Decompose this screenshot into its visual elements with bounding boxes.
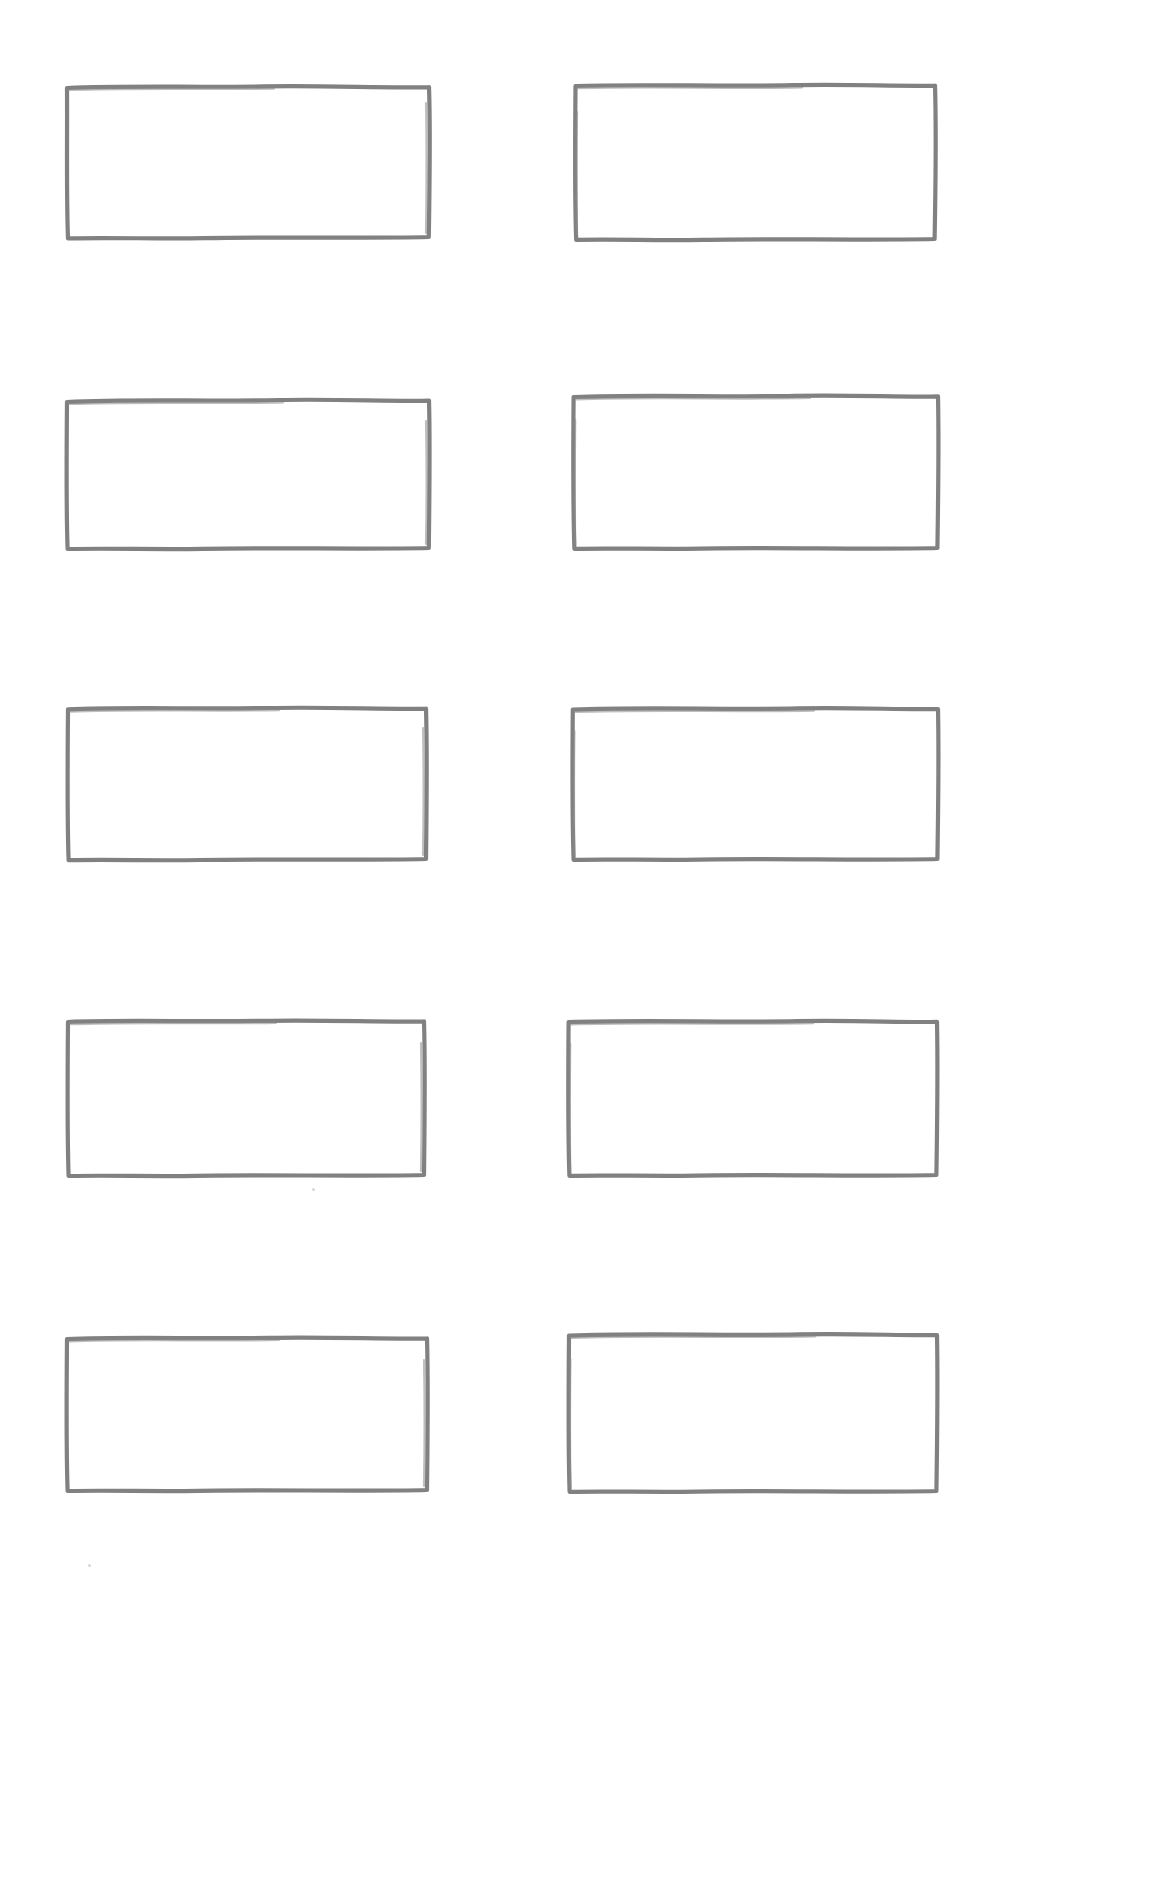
box-r4-c1[interactable]	[64, 1017, 428, 1179]
box-r2-c1[interactable]	[63, 396, 433, 552]
box-r1-c2[interactable]	[572, 82, 938, 243]
box-grid	[0, 0, 1173, 1897]
paper-speck	[312, 1188, 315, 1191]
box-r3-c2[interactable]	[569, 705, 941, 863]
hand-drawn-rectangle-icon	[63, 1334, 431, 1494]
box-r4-c2[interactable]	[565, 1018, 940, 1179]
hand-drawn-rectangle-icon	[569, 705, 941, 863]
hand-drawn-rectangle-icon	[63, 396, 433, 552]
box-r2-c2[interactable]	[570, 392, 941, 552]
hand-drawn-rectangle-icon	[64, 1017, 428, 1179]
box-r3-c1[interactable]	[64, 704, 430, 863]
worksheet-page	[0, 0, 1173, 1897]
hand-drawn-rectangle-icon	[570, 392, 941, 552]
hand-drawn-rectangle-icon	[565, 1018, 940, 1179]
hand-drawn-rectangle-icon	[565, 1331, 940, 1495]
paper-speck	[88, 1564, 91, 1567]
hand-drawn-rectangle-icon	[64, 704, 430, 863]
box-r1-c1[interactable]	[64, 83, 432, 241]
box-r5-c2[interactable]	[565, 1331, 940, 1495]
box-r5-c1[interactable]	[63, 1334, 431, 1494]
hand-drawn-rectangle-icon	[64, 83, 432, 241]
hand-drawn-rectangle-icon	[572, 82, 938, 243]
